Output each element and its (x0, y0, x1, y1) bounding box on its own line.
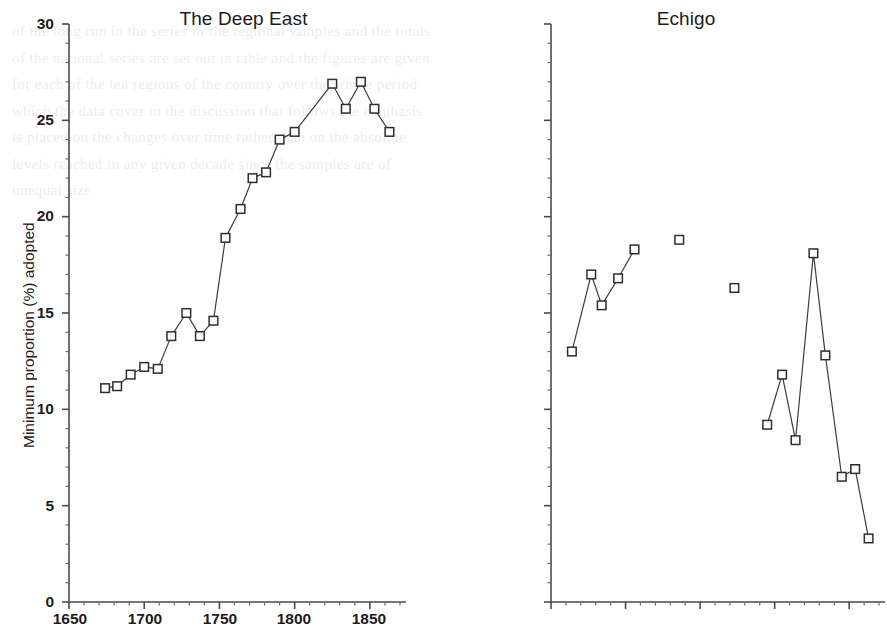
data-point-marker (730, 284, 739, 293)
series-group-right (568, 235, 873, 542)
data-point-marker (614, 274, 623, 283)
data-point-marker (763, 420, 772, 429)
data-point-marker (568, 347, 577, 356)
chart-panel-echigo: In the case of the Echigo region the ser… (443, 0, 887, 643)
series-line-2 (767, 253, 868, 538)
data-point-marker (597, 301, 606, 310)
axis-ticks-right (544, 24, 879, 609)
data-point-marker (864, 534, 873, 543)
axes-right (551, 24, 885, 602)
panel-title-right: Echigo (443, 8, 887, 30)
data-point-marker (791, 436, 800, 445)
data-point-marker (587, 270, 596, 279)
data-point-marker (778, 370, 787, 379)
data-point-marker (675, 235, 684, 244)
data-point-marker (837, 472, 846, 481)
figure-two-panel-line-charts: of the long run in the series of the reg… (0, 0, 887, 643)
data-point-marker (809, 249, 818, 258)
data-point-marker (821, 351, 830, 360)
plot-area-right (0, 0, 444, 643)
data-point-marker (851, 465, 860, 474)
data-point-marker (630, 245, 639, 254)
